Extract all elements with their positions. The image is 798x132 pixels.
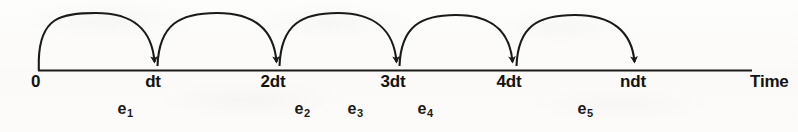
event-sub-e2: 2 xyxy=(304,107,310,119)
event-sub-e1: 1 xyxy=(127,107,133,119)
timeline-diagram: 0 dt 2dt 3dt 4dt ndt Time e1 e2 e3 e4 e5 xyxy=(0,0,798,132)
time-axis-end-label: Time xyxy=(750,72,789,92)
transition-arc-4 xyxy=(400,15,513,66)
event-sub-e3: 3 xyxy=(357,107,363,119)
transition-arc-5 xyxy=(517,15,635,66)
event-sub-e4: 4 xyxy=(427,107,433,119)
event-label-e4: e4 xyxy=(417,100,432,118)
transition-arc-1 xyxy=(39,13,155,62)
event-label-e2: e2 xyxy=(294,100,309,118)
event-label-e3: e3 xyxy=(347,100,362,118)
event-sub-e5: 5 xyxy=(587,107,593,119)
tick-label-ndt: ndt xyxy=(620,72,646,92)
event-base-e1: e xyxy=(117,100,126,117)
tick-label-2dt: 2dt xyxy=(261,72,286,92)
event-label-e5: e5 xyxy=(577,100,592,118)
tick-label-3dt: 3dt xyxy=(381,72,406,92)
event-base-e2: e xyxy=(294,100,303,117)
event-label-e1: e1 xyxy=(117,100,132,118)
event-base-e5: e xyxy=(577,100,586,117)
tick-label-0: 0 xyxy=(31,72,40,92)
event-base-e3: e xyxy=(347,100,356,117)
tick-label-4dt: 4dt xyxy=(497,72,522,92)
event-base-e4: e xyxy=(417,100,426,117)
transition-arc-3 xyxy=(280,13,397,66)
tick-label-dt: dt xyxy=(145,72,161,92)
transition-arc-2 xyxy=(158,13,277,66)
